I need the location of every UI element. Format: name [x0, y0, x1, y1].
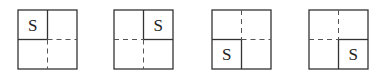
panel-4: S — [309, 10, 368, 69]
quadrant-label-s: S — [154, 16, 163, 35]
quadrant-label-s: S — [28, 16, 37, 35]
panel-2: S — [114, 10, 173, 69]
quadrant-label-s: S — [222, 45, 231, 64]
quadrant-label-s: S — [349, 45, 358, 64]
panel-1: S — [18, 10, 77, 69]
panel-3: S — [212, 10, 271, 69]
quadrant-diagram: SSSS — [0, 0, 382, 81]
